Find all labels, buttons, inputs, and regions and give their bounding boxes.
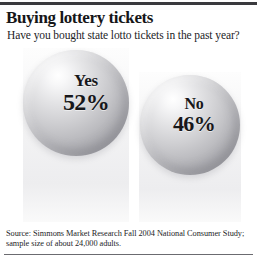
sphere-percent-yes: 52% — [53, 90, 119, 114]
bottom-divider — [4, 254, 253, 255]
sphere-label-no: No 46% — [163, 96, 225, 135]
sphere-answer-yes: Yes — [53, 72, 119, 89]
top-divider — [0, 2, 257, 5]
chart-plot-area: Yes 52% No 46% — [0, 44, 257, 224]
source-note: Source: Simmons Market Research Fall 200… — [6, 229, 252, 248]
chart-subtitle: Have you bought state lotto tickets in t… — [7, 29, 255, 42]
sphere-percent-no: 46% — [163, 113, 225, 135]
source-line-2: sample size of about 24,000 adults. — [6, 239, 252, 249]
sphere-label-yes: Yes 52% — [53, 72, 119, 114]
sphere-answer-no: No — [163, 96, 225, 112]
source-line-1: Source: Simmons Market Research Fall 200… — [6, 229, 252, 239]
infographic-chart: Buying lottery tickets Have you bought s… — [0, 0, 257, 262]
chart-title: Buying lottery tickets — [6, 8, 251, 27]
